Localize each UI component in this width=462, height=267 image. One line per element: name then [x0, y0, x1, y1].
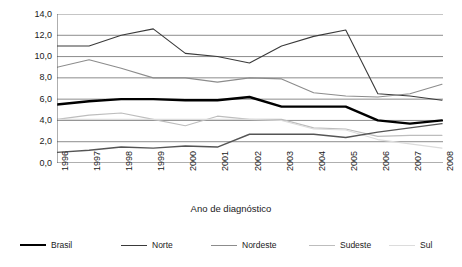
x-axis-title: Ano de diagnóstico	[0, 203, 462, 214]
legend-swatch	[20, 244, 46, 246]
x-axis-tick-label: 2005	[350, 151, 359, 171]
x-axis-tick-label: 1998	[125, 151, 134, 171]
legend-label: Norte	[152, 241, 173, 250]
legend-swatch	[389, 245, 415, 246]
legend-item-sul[interactable]: Sul	[389, 236, 432, 254]
legend-swatch	[121, 245, 147, 246]
legend-label: Sul	[420, 241, 432, 250]
x-axis-tick-label: 2003	[286, 151, 295, 171]
x-axis-tick-label: 2002	[254, 151, 263, 171]
x-axis-tick-label: 1999	[157, 151, 166, 171]
legend-label: Brasil	[51, 241, 72, 250]
x-axis-tick-label: 1997	[93, 151, 102, 171]
x-axis-tick-label: 2000	[189, 151, 198, 171]
x-axis-tick-label: 2001	[221, 151, 230, 171]
legend-label: Sudeste	[340, 241, 371, 250]
x-axis-tick-labels: 1996199719981999200020012002200320042005…	[0, 0, 462, 267]
x-axis-title-text: Ano de diagnóstico	[191, 203, 272, 214]
legend-item-brasil[interactable]: Brasil	[20, 236, 72, 254]
legend-swatch	[309, 245, 335, 246]
x-axis-tick-label: 2004	[318, 151, 327, 171]
legend-label: Nordeste	[242, 241, 277, 250]
x-axis-tick-label: 2006	[382, 151, 391, 171]
legend-item-norte[interactable]: Norte	[121, 236, 173, 254]
legend-item-nordeste[interactable]: Nordeste	[211, 236, 277, 254]
chart-legend: BrasilNorteNordesteSudesteSulCentro-Oest…	[0, 236, 462, 256]
x-axis-tick-label: 2008	[446, 151, 455, 171]
legend-swatch	[211, 245, 237, 246]
legend-item-sudeste[interactable]: Sudeste	[309, 236, 371, 254]
x-axis-tick-label: 2007	[414, 151, 423, 171]
incidence-rate-line-chart: Taxa de incidência 0,02,04,06,08,010,012…	[0, 0, 462, 267]
x-axis-tick-label: 1996	[61, 151, 70, 171]
